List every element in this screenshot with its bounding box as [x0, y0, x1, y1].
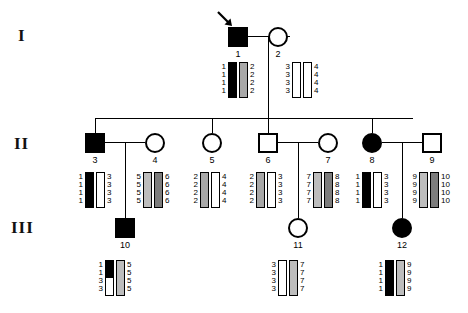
allele-labels-4-right: 6 6 6 6 [164, 172, 173, 205]
haplotype-block-7: 7 7 7 7 8 8 8 8 [303, 172, 343, 208]
haplotype-block-9: 9 9 9 9 10 10 10 10 [409, 172, 454, 208]
allele-labels-9-left: 9 9 9 9 [409, 172, 418, 205]
descent-line-8-9 [402, 142, 403, 218]
allele-labels-4-left: 5 5 5 5 [133, 172, 142, 205]
sib-drop-6 [268, 118, 269, 133]
haplotype-bar-3-a [85, 172, 94, 208]
allele-labels-5-right: 4 4 4 4 [221, 172, 230, 205]
allele-labels-11-left: 3 3 3 3 [268, 260, 277, 293]
allele-labels-7-right: 8 8 8 8 [334, 172, 343, 205]
haplotype-bar-2-b [303, 62, 312, 98]
allele-labels-12-left: 1 1 1 1 [375, 260, 384, 293]
haplotype-bar-5-a [200, 172, 209, 208]
sib-drop-3 [95, 118, 96, 133]
haplotype-bar-12-b [396, 260, 405, 296]
allele-labels-12-right: 9 9 9 9 [406, 260, 415, 293]
haplotype-bar-11-a [278, 260, 287, 296]
allele-labels-1-right: 2 2 2 2 [249, 62, 258, 95]
haplotype-bar-10-a [105, 260, 114, 296]
pedigree-chart: I II III 1 2 1 1 1 1 2 2 2 [0, 0, 468, 313]
haplotype-block-1: 1 1 1 1 2 2 2 2 [218, 62, 258, 98]
allele-labels-10-right: 5 5 5 5 [126, 260, 135, 293]
individual-id-7: 7 [315, 156, 341, 165]
haplotype-bar-1-a [228, 62, 237, 98]
individual-id-8: 8 [359, 156, 385, 165]
individual-id-4: 4 [142, 156, 168, 165]
allele-labels-6-right: 3 3 3 3 [277, 172, 286, 205]
haplotype-bar-4-a [143, 172, 152, 208]
haplotype-block-12: 1 1 1 1 9 9 9 9 [375, 260, 415, 296]
individual-id-12: 12 [389, 241, 415, 250]
haplotype-block-2: 3 3 3 3 4 4 4 4 [282, 62, 322, 98]
individual-symbol-7[interactable] [318, 133, 338, 153]
individual-id-3: 3 [82, 156, 108, 165]
haplotype-block-11: 3 3 3 3 7 7 7 7 [268, 260, 308, 296]
individual-symbol-4[interactable] [145, 133, 165, 153]
haplotype-bar-6-a [256, 172, 265, 208]
haplotype-block-8: 1 1 1 1 3 3 3 3 [352, 172, 392, 208]
allele-labels-5-left: 2 2 2 2 [190, 172, 199, 205]
descent-line-6-7 [298, 142, 299, 218]
allele-labels-10-left: 1 1 3 3 [95, 260, 104, 293]
individual-symbol-11[interactable] [288, 218, 308, 238]
individual-id-9: 9 [419, 156, 445, 165]
individual-symbol-12[interactable] [392, 218, 412, 238]
allele-labels-11-right: 7 7 7 7 [299, 260, 308, 293]
generation-label-I: I [18, 27, 26, 44]
individual-symbol-5[interactable] [202, 133, 222, 153]
individual-symbol-9[interactable] [422, 133, 442, 153]
haplotype-bar-2-a [292, 62, 301, 98]
allele-labels-3-right: 3 3 3 3 [106, 172, 115, 205]
generation-label-II: II [14, 135, 29, 152]
haplotype-bar-1-b [239, 62, 248, 98]
individual-id-5: 5 [199, 156, 225, 165]
sibship-line-gen2 [95, 118, 413, 119]
generation-label-III: III [11, 219, 34, 236]
individual-id-11: 11 [285, 241, 311, 250]
individual-symbol-10[interactable] [115, 218, 135, 238]
allele-labels-9-right: 10 10 10 10 [440, 172, 454, 205]
haplotype-bar-10-b [116, 260, 125, 296]
individual-symbol-2[interactable] [268, 27, 288, 47]
haplotype-bar-7-b [324, 172, 333, 208]
allele-labels-2-left: 3 3 3 3 [282, 62, 291, 95]
haplotype-block-4: 5 5 5 5 6 6 6 6 [133, 172, 173, 208]
haplotype-bar-4-b [154, 172, 163, 208]
haplotype-block-3: 1 1 1 1 3 3 3 3 [75, 172, 115, 208]
individual-id-6: 6 [255, 156, 281, 165]
individual-id-1: 1 [225, 50, 251, 59]
individual-symbol-3[interactable] [85, 133, 105, 153]
allele-labels-7-left: 7 7 7 7 [303, 172, 312, 205]
haplotype-block-6: 2 2 2 2 3 3 3 3 [246, 172, 286, 208]
haplotype-bar-9-a [419, 172, 428, 208]
descent-line-gen1 [268, 36, 269, 118]
haplotype-bar-7-a [313, 172, 322, 208]
individual-id-10: 10 [112, 241, 138, 250]
mating-line-1-2 [248, 36, 268, 37]
haplotype-bar-5-b [211, 172, 220, 208]
haplotype-bar-8-b [373, 172, 382, 208]
sib-drop-8 [372, 118, 373, 133]
allele-labels-1-left: 1 1 1 1 [218, 62, 227, 95]
allele-labels-6-left: 2 2 2 2 [246, 172, 255, 205]
individual-symbol-6[interactable] [258, 133, 278, 153]
allele-labels-8-right: 3 3 3 3 [383, 172, 392, 205]
haplotype-block-10: 1 1 3 3 5 5 5 5 [95, 260, 135, 296]
sib-drop-5 [212, 118, 213, 133]
allele-labels-2-right: 4 4 4 4 [313, 62, 322, 95]
allele-labels-8-left: 1 1 1 1 [352, 172, 361, 205]
haplotype-bar-11-b [289, 260, 298, 296]
descent-line-3-4 [125, 142, 126, 218]
haplotype-bar-9-b [430, 172, 439, 208]
haplotype-bar-3-b [96, 172, 105, 208]
haplotype-bar-6-b [267, 172, 276, 208]
haplotype-bar-8-a [362, 172, 371, 208]
allele-labels-3-left: 1 1 1 1 [75, 172, 84, 205]
individual-symbol-1[interactable] [228, 27, 248, 47]
haplotype-bar-12-a [385, 260, 394, 296]
haplotype-block-5: 2 2 2 2 4 4 4 4 [190, 172, 230, 208]
individual-symbol-8[interactable] [362, 133, 382, 153]
